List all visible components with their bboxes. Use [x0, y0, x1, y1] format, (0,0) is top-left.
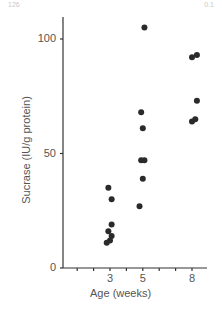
data-point	[141, 157, 147, 163]
y-tick-label: 50	[44, 147, 56, 159]
data-point	[192, 116, 198, 122]
data-point	[109, 221, 115, 227]
y-tick-label: 0	[50, 261, 56, 273]
data-point	[194, 98, 200, 104]
axes	[60, 17, 207, 271]
data-points	[104, 25, 200, 246]
data-point	[137, 203, 143, 209]
y-tick-label: 100	[38, 32, 56, 44]
data-point	[104, 240, 110, 246]
x-tick-label: 5	[140, 272, 146, 284]
x-axis-label: Age (weeks)	[90, 287, 151, 299]
data-point	[194, 52, 200, 58]
scatter-plot	[0, 0, 222, 314]
data-point	[105, 185, 111, 191]
x-tick-label: 8	[189, 272, 195, 284]
data-point	[109, 196, 115, 202]
x-tick-label: 3	[107, 272, 113, 284]
data-point	[140, 125, 146, 131]
data-point	[138, 109, 144, 115]
data-point	[141, 25, 147, 31]
data-point	[140, 176, 146, 182]
